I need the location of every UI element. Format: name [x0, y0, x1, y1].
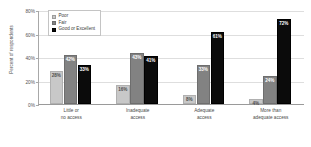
bar: 24% — [263, 76, 277, 104]
bar: 28% — [50, 71, 64, 104]
bar-value-label: 24% — [264, 79, 276, 84]
bar: 4% — [249, 99, 263, 104]
gridline — [39, 58, 304, 59]
y-axis-tick-label: 20% — [25, 79, 35, 84]
bar-value-label: 33% — [79, 68, 91, 73]
bar-value-label: 4% — [250, 102, 262, 107]
legend-item-label: Poor — [59, 14, 69, 19]
x-axis-category-label: More than adequate access — [238, 108, 305, 122]
bar: 33% — [78, 65, 92, 104]
legend-item-label: Fair — [59, 21, 67, 26]
legend-item: Good or Excellent — [52, 27, 95, 33]
y-axis-tick — [36, 35, 39, 36]
bar-value-label: 42% — [65, 58, 77, 63]
bar-value-label: 8% — [184, 98, 196, 103]
y-axis-tick — [36, 11, 39, 12]
x-axis-category-label: Little or no access — [38, 108, 105, 122]
legend-swatch-icon — [52, 21, 56, 25]
y-axis-tick-label: 80% — [25, 9, 35, 14]
legend-swatch-icon — [52, 15, 56, 19]
y-axis-tick-label: 0% — [28, 103, 35, 108]
y-axis-tick-label: 40% — [25, 56, 35, 61]
y-axis-tick — [36, 105, 39, 106]
bar-value-label: 33% — [198, 68, 210, 73]
y-axis-tick — [36, 58, 39, 59]
bar: 43% — [130, 53, 144, 104]
bar-chart: Percent of respondents 0%20%40%60%80%28%… — [0, 0, 311, 147]
bar: 72% — [277, 19, 291, 104]
y-axis-title: Percent of respondents — [9, 8, 14, 92]
x-axis-category-label: Inadequate access — [105, 108, 172, 122]
bar: 61% — [211, 32, 225, 104]
legend-item: Poor — [52, 14, 95, 20]
bar: 42% — [64, 55, 78, 104]
x-axis-category-label: Adequate access — [171, 108, 238, 122]
legend-swatch-icon — [52, 28, 56, 32]
y-axis-tick — [36, 82, 39, 83]
bar-value-label: 28% — [51, 74, 63, 79]
bar-value-label: 61% — [212, 35, 224, 40]
bar: 33% — [197, 65, 211, 104]
bar-value-label: 16% — [117, 88, 129, 93]
bar-value-label: 43% — [131, 56, 143, 61]
bar-value-label: 72% — [278, 22, 290, 27]
bar: 16% — [116, 85, 130, 104]
legend-item-label: Good or Excellent — [59, 27, 96, 32]
legend: Poor Fair Good or Excellent — [48, 10, 101, 36]
bar: 41% — [144, 56, 158, 104]
bar: 8% — [183, 95, 197, 104]
y-axis-tick-label: 60% — [25, 32, 35, 37]
bar-value-label: 41% — [145, 59, 157, 64]
legend-item: Fair — [52, 20, 95, 26]
